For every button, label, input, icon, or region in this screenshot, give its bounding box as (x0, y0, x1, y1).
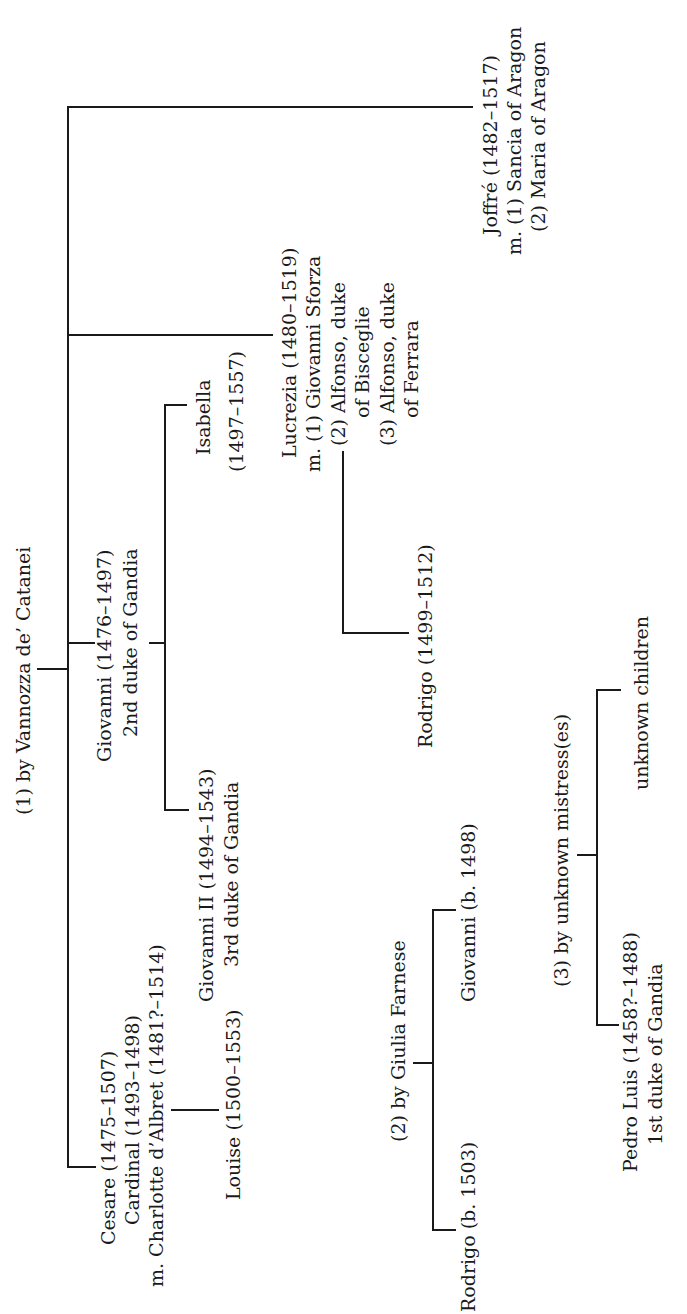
farnese-label: (2) by Giulia Farnese (387, 940, 409, 1142)
joffre-name: Joffré (1482–1517) (479, 55, 501, 237)
rodrigo-f-name: Rodrigo (b. 1503) (457, 1142, 479, 1312)
lucrezia-marriage-2: (2) Alfonso, duke (327, 282, 349, 446)
pedro-title: 1st duke of Gandia (644, 963, 666, 1145)
louise-name: Louise (1500–1553) (222, 1010, 244, 1200)
mistress-label: (3) by unknown mistress(es) (550, 714, 572, 987)
pedro-name: Pedro Luis (1458?–1488) (619, 932, 641, 1172)
joffre-marriage-2: (2) Maria of Aragon (527, 41, 549, 232)
isabella-dates: (1497–1557) (225, 351, 247, 472)
vannozza-label: (1) by Vannozza de’ Catanei (12, 547, 34, 815)
giovanni-f-name: Giovanni (b. 1498) (457, 823, 479, 1002)
cesare-marriage: m. Charlotte d’Albret (1481?–1514) (145, 944, 167, 1287)
isabella-name: Isabella (192, 380, 214, 455)
giovanni-title: 2nd duke of Gandia (119, 548, 141, 737)
lucrezia-marriage-2b: of Bisceglie (351, 306, 373, 418)
giovanni2-title: 3rd duke of Gandia (220, 782, 242, 967)
unknown-children-label: unknown children (630, 616, 652, 790)
cesare-cardinal: Cardinal (1493–1498) (121, 1015, 143, 1225)
lucrezia-marriage-3: (3) Alfonso, duke (376, 282, 398, 446)
lucrezia-marriage-1: m. (1) Giovanni Sforza (302, 256, 324, 472)
family-tree-diagram: (1) by Vannozza de’ Catanei Cesare (1475… (0, 0, 687, 1314)
rodrigo-name: Rodrigo (1499–1512) (414, 544, 436, 748)
labels: (1) by Vannozza de’ Catanei Cesare (1475… (12, 27, 666, 1312)
joffre-marriage-1: m. (1) Sancia of Aragon (503, 27, 525, 255)
cesare-name: Cesare (1475–1507) (97, 1051, 119, 1245)
lucrezia-name: Lucrezia (1480–1519) (278, 248, 300, 458)
giovanni2-name: Giovanni II (1494–1543) (195, 769, 217, 1002)
lucrezia-marriage-3b: of Ferrara (400, 320, 422, 418)
giovanni-name: Giovanni (1476–1497) (93, 550, 115, 762)
